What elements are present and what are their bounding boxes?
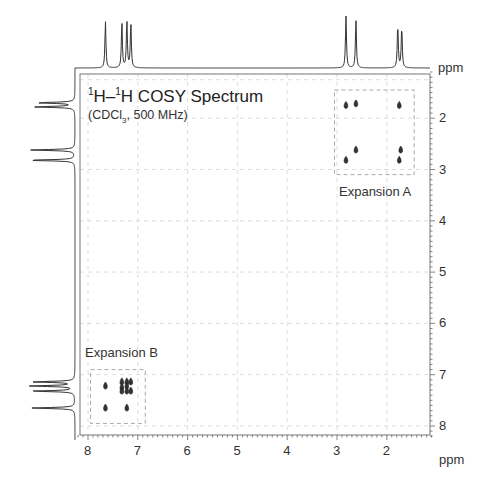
chart-title: 1H–1H COSY Spectrum (88, 86, 263, 107)
y-tick-label: 5 (439, 264, 446, 279)
expansion-a-label: Expansion A (339, 184, 411, 199)
y-tick-label: 6 (439, 315, 446, 330)
left-projection-spectrum (29, 68, 75, 440)
x-axis-ticks (78, 435, 432, 440)
crosspeaks (104, 100, 403, 411)
x-tick-label: 3 (333, 443, 340, 458)
y-tick-label: 2 (439, 110, 446, 125)
y-tick-label: 8 (439, 418, 446, 433)
expansion-boxes (90, 90, 414, 423)
top-projection-spectrum (75, 16, 430, 68)
y-axis-ticks (430, 72, 435, 436)
x-tick-label: 7 (134, 443, 141, 458)
x-tick-label: 2 (383, 443, 390, 458)
x-tick-label: 5 (233, 443, 240, 458)
chart-subtitle: (CDCl3, 500 MHz) (88, 108, 188, 125)
top-axis-unit-label: ppm (438, 60, 463, 75)
x-tick-label: 4 (283, 443, 290, 458)
x-tick-label: 6 (184, 443, 191, 458)
y-tick-label: 7 (439, 367, 446, 382)
x-tick-label: 8 (84, 443, 91, 458)
cosy-chart (0, 0, 485, 489)
y-tick-label: 3 (439, 162, 446, 177)
x-axis-label: ppm (439, 452, 464, 467)
expansion-b-label: Expansion B (85, 345, 158, 360)
y-tick-label: 4 (439, 213, 446, 228)
